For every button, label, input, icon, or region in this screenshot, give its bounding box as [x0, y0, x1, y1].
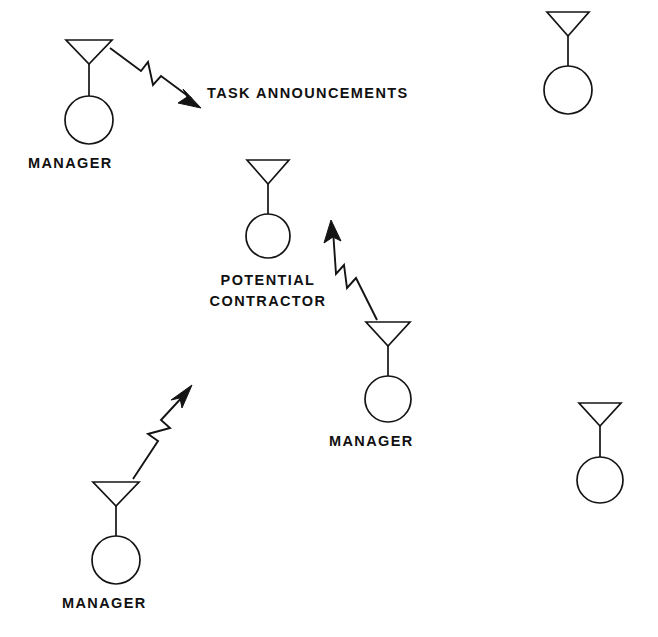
agent-body-circle-icon: [65, 96, 113, 144]
agent-manager-top-left[interactable]: MANAGER: [28, 40, 113, 171]
agent-body-circle-icon: [246, 214, 290, 258]
antenna-triangle-icon: [366, 322, 410, 346]
agent-body-circle-icon: [365, 376, 411, 422]
agent-label-manager-lower-center: MANAGER: [329, 433, 414, 449]
agent-body-circle-icon: [577, 457, 623, 503]
antenna-triangle-icon: [66, 40, 112, 64]
agent-label-manager-bottom-left: MANAGER: [62, 595, 147, 611]
agent-manager-lower-center[interactable]: MANAGER: [329, 322, 414, 449]
message-label-task-announcements: TASK ANNOUNCEMENTS: [207, 85, 409, 101]
message-arrow-bid-bottom-left[interactable]: [133, 385, 192, 479]
antenna-triangle-icon: [579, 403, 621, 426]
arrowhead-icon: [324, 220, 341, 243]
task-announcement-diagram: MANAGER POTENTIAL CONTRACTOR MANAGER MAN…: [0, 0, 658, 637]
diagram-canvas: MANAGER POTENTIAL CONTRACTOR MANAGER MAN…: [0, 0, 658, 637]
message-arrow-bid-lower-center[interactable]: [324, 220, 377, 320]
antenna-triangle-icon: [93, 482, 139, 506]
agent-potential-contractor[interactable]: POTENTIAL CONTRACTOR: [210, 160, 327, 309]
agent-body-circle-icon: [544, 66, 592, 114]
agent-label-potential-contractor-line1: POTENTIAL: [221, 272, 316, 288]
antenna-triangle-icon: [247, 160, 289, 184]
agent-top-right-unlabeled[interactable]: [544, 12, 592, 114]
antenna-triangle-icon: [547, 12, 589, 36]
lightning-arrow-shaft-icon: [110, 48, 192, 99]
agent-body-circle-icon: [92, 536, 140, 584]
message-arrow-task-announcement[interactable]: TASK ANNOUNCEMENTS: [110, 48, 409, 108]
lightning-arrow-shaft-icon: [133, 393, 186, 479]
agent-bottom-right-unlabeled[interactable]: [577, 403, 623, 503]
lightning-arrow-shaft-icon: [333, 230, 377, 320]
agent-label-manager-top-left: MANAGER: [28, 155, 113, 171]
agent-label-potential-contractor-line2: CONTRACTOR: [210, 293, 327, 309]
agent-manager-bottom-left[interactable]: MANAGER: [62, 482, 147, 611]
